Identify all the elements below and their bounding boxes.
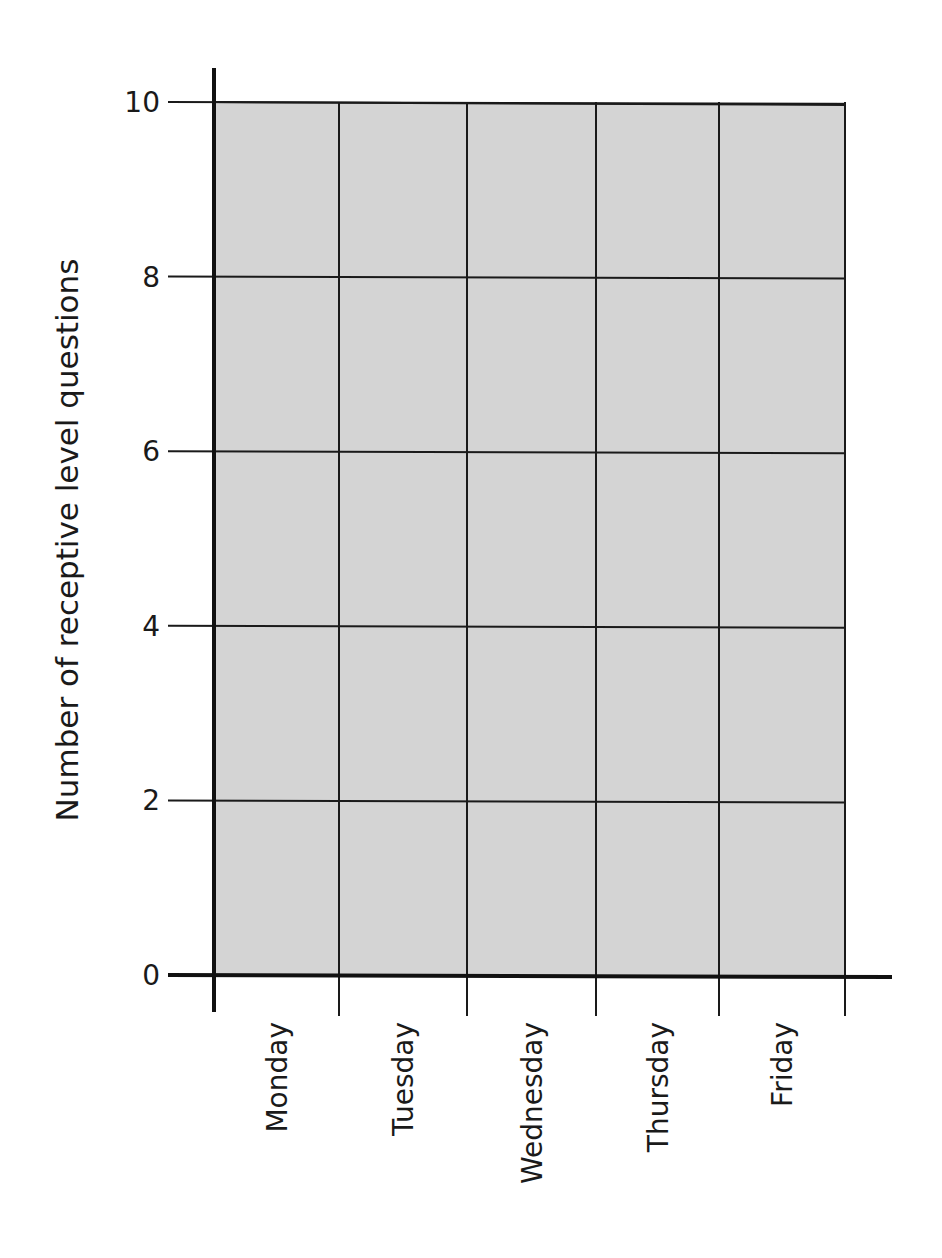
y-tick-label: 8 (142, 261, 160, 294)
x-axis (168, 975, 892, 977)
y-tick-label: 0 (142, 959, 160, 992)
x-category-labels: MondayTuesdayWednesdayThursdayFriday (261, 1022, 800, 1184)
y-axis-title: Number of receptive level questions (49, 259, 85, 822)
y-tick-label: 4 (142, 610, 160, 643)
y-tick-label: 2 (142, 784, 160, 817)
x-category-label: Thursday (642, 1022, 675, 1153)
x-category-label: Monday (261, 1022, 294, 1133)
x-category-label: Tuesday (387, 1022, 420, 1137)
y-tick-label: 10 (124, 86, 160, 119)
x-category-label: Friday (766, 1022, 799, 1107)
y-tick-label: 6 (142, 435, 160, 468)
x-category-label: Wednesday (516, 1022, 549, 1184)
y-tick-labels: 0246810 (124, 86, 160, 992)
bar-chart: 0246810 MondayTuesdayWednesdayThursdayFr… (0, 0, 942, 1258)
plot-area (214, 102, 846, 975)
